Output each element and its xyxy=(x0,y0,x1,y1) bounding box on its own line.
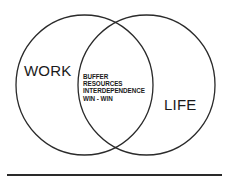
intersection-list: BUFFER RESOURCES INTERDEPENDENCE WIN - W… xyxy=(83,73,145,102)
intersection-item-win-win: WIN - WIN xyxy=(83,95,145,102)
work-set-label: WORK xyxy=(24,63,71,78)
life-set-label: LIFE xyxy=(164,97,196,112)
intersection-item-buffer: BUFFER xyxy=(83,73,145,80)
venn-diagram: WORK LIFE BUFFER RESOURCES INTERDEPENDEN… xyxy=(0,0,230,178)
intersection-item-resources: RESOURCES xyxy=(83,80,145,87)
intersection-item-interdependence: INTERDEPENDENCE xyxy=(83,87,145,94)
